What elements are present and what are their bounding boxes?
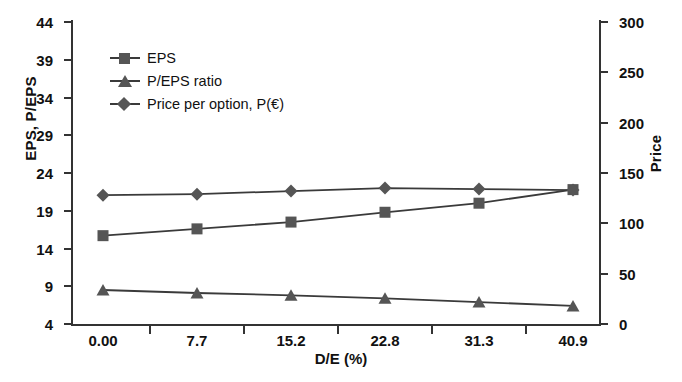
- y-tick-left-label: 34: [36, 89, 53, 106]
- y-tick-left: 4: [64, 323, 71, 325]
- y-axis-right-title: Price: [647, 94, 664, 214]
- legend-item-p-eps-ratio: P/EPS ratio: [110, 69, 284, 92]
- y-tick-right: 250: [601, 71, 608, 73]
- series-line: [103, 190, 573, 236]
- x-tick: [243, 326, 245, 334]
- x-tick-label: 7.7: [187, 332, 208, 349]
- y-tick-left: 9: [64, 285, 71, 287]
- diamond-marker-icon: [110, 95, 140, 113]
- y-tick-right-label: 100: [619, 215, 644, 232]
- x-tick: [337, 326, 339, 334]
- data-point-diamond: [473, 183, 486, 196]
- x-tick-label: 40.9: [558, 332, 587, 349]
- data-point-square: [474, 198, 485, 209]
- y-tick-left-label: 4: [45, 316, 53, 333]
- y-tick-left-label: 9: [45, 278, 53, 295]
- y-tick-right: 200: [601, 122, 608, 124]
- data-point-square: [286, 217, 297, 228]
- y-tick-right-label: 200: [619, 114, 644, 131]
- y-tick-right-label: 250: [619, 64, 644, 81]
- legend-item-price-per-option: Price per option, P(€): [110, 92, 284, 115]
- x-tick-label: 31.3: [464, 332, 493, 349]
- x-tick-label: 22.8: [370, 332, 399, 349]
- legend-label: P/EPS ratio: [147, 73, 222, 89]
- data-point-square: [380, 207, 391, 218]
- legend-item-eps: EPS: [110, 46, 284, 69]
- y-tick-left-label: 44: [36, 14, 53, 31]
- triangle-marker-icon: [110, 72, 140, 90]
- chart-legend: EPS P/EPS ratio Price per option, P(€): [110, 46, 284, 115]
- y-tick-left-label: 24: [36, 165, 53, 182]
- y-tick-right-label: 300: [619, 14, 644, 31]
- y-tick-left-label: 39: [36, 51, 53, 68]
- y-tick-left: 24: [64, 172, 71, 174]
- x-axis-title: D/E (%): [0, 350, 682, 367]
- y-tick-right: 0: [601, 323, 608, 325]
- y-tick-right: 150: [601, 172, 608, 174]
- x-tick: [431, 326, 433, 334]
- data-point-diamond: [379, 182, 392, 195]
- data-point-diamond: [285, 185, 298, 198]
- data-point-diamond: [191, 188, 204, 201]
- y-tick-left: 14: [64, 248, 71, 250]
- y-tick-right-label: 50: [619, 265, 636, 282]
- y-tick-left: 19: [64, 210, 71, 212]
- y-tick-left-label: 19: [36, 202, 53, 219]
- y-tick-right-label: 150: [619, 165, 644, 182]
- legend-label: EPS: [147, 50, 176, 66]
- series-line: [103, 188, 573, 195]
- y-tick-left-label: 29: [36, 127, 53, 144]
- x-tick-label: 15.2: [276, 332, 305, 349]
- data-point-diamond: [97, 189, 110, 202]
- data-point-square: [98, 230, 109, 241]
- y-tick-right: 300: [601, 21, 608, 23]
- chart-figure: EPS, P/EPS Price D/E (%) 491419242934394…: [0, 0, 682, 382]
- data-point-square: [192, 223, 203, 234]
- x-tick: [525, 326, 527, 334]
- y-tick-left: 44: [64, 21, 71, 23]
- legend-label: Price per option, P(€): [147, 96, 284, 112]
- y-tick-left: 34: [64, 97, 71, 99]
- square-marker-icon: [110, 49, 140, 67]
- y-tick-left: 39: [64, 59, 71, 61]
- y-tick-left: 29: [64, 134, 71, 136]
- x-tick-label: 0.00: [88, 332, 117, 349]
- y-tick-right-label: 0: [619, 316, 627, 333]
- x-tick: [149, 326, 151, 334]
- y-tick-left-label: 14: [36, 240, 53, 257]
- y-tick-right: 100: [601, 222, 608, 224]
- series-line: [103, 290, 573, 306]
- y-tick-right: 50: [601, 273, 608, 275]
